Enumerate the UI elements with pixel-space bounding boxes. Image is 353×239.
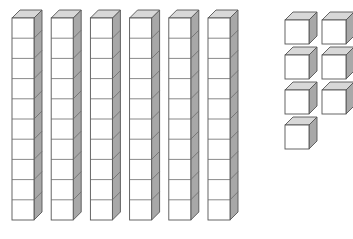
tens-rod — [208, 10, 238, 220]
unit-cube — [322, 12, 353, 44]
tens-rod — [169, 10, 199, 220]
cuboid-front-face — [285, 125, 309, 149]
tens-rod — [51, 10, 81, 220]
unit-cube — [322, 47, 353, 79]
ones-group — [285, 12, 353, 149]
cuboid-front-face — [322, 55, 346, 79]
unit-cube — [322, 82, 353, 114]
cuboid-front-face — [322, 20, 346, 44]
tens-rod — [90, 10, 120, 220]
base-ten-blocks-illustration — [0, 0, 353, 239]
tens-group — [12, 10, 238, 220]
unit-cube — [285, 117, 317, 149]
tens-rod — [130, 10, 160, 220]
unit-cube — [285, 12, 317, 44]
cuboid-front-face — [285, 20, 309, 44]
cuboid-front-face — [322, 90, 346, 114]
cuboid-front-face — [285, 55, 309, 79]
unit-cube — [285, 82, 317, 114]
tens-rod — [12, 10, 42, 220]
blocks-canvas — [0, 0, 353, 239]
cuboid-front-face — [285, 90, 309, 114]
unit-cube — [285, 47, 317, 79]
